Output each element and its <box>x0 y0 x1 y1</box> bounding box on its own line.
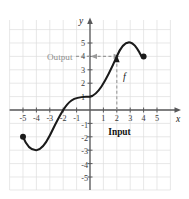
y-tick-label: -1 <box>81 121 88 130</box>
x-tick-label: 3 <box>128 114 132 123</box>
curve-left-endpoint <box>20 134 26 140</box>
curve-right-endpoint <box>141 53 147 59</box>
x-axis <box>10 107 181 113</box>
graph-figure: -5 -4 -3 -2 -1 1 2 3 4 5 5 4 3 2 1 -1 -2… <box>0 0 189 199</box>
y-tick-label: 3 <box>81 66 85 75</box>
y-tick-label: -2 <box>81 134 88 143</box>
y-tick-label: 5 <box>81 39 85 48</box>
x-tick-label: 1 <box>101 114 105 123</box>
y-tick-label: -4 <box>81 161 88 170</box>
output-label: Output <box>47 52 73 62</box>
y-tick-label: -5 <box>81 174 88 183</box>
x-tick-label: 2 <box>115 114 119 123</box>
function-label: f <box>123 71 127 82</box>
y-tick-label: 2 <box>81 79 85 88</box>
y-tick-labels: 5 4 3 2 1 -1 -2 -3 -4 -5 <box>81 39 88 183</box>
x-tick-label: -1 <box>73 114 80 123</box>
y-axis-label: y <box>78 16 84 26</box>
x-tick-labels: -5 -4 -3 -2 -1 1 2 3 4 5 <box>20 114 159 123</box>
input-label: Input <box>108 127 131 137</box>
x-tick-label: -4 <box>33 114 40 123</box>
x-tick-label: -5 <box>20 114 27 123</box>
x-tick-label: -3 <box>46 114 53 123</box>
y-tick-label: -3 <box>81 147 88 156</box>
x-tick-label: 5 <box>155 114 159 123</box>
x-axis-label: x <box>175 114 181 124</box>
x-tick-label: 4 <box>142 114 146 123</box>
